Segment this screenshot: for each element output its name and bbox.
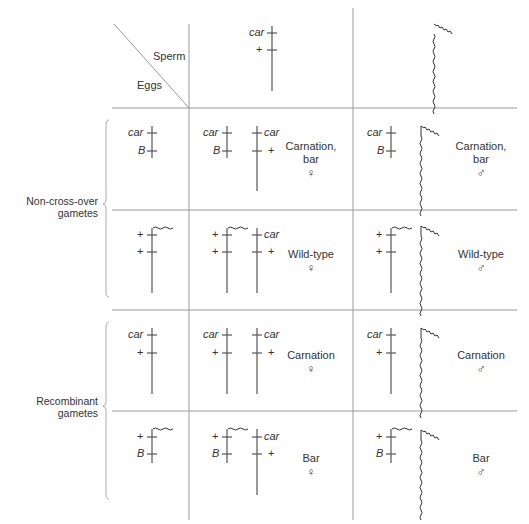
group-label-recombinant: Recombinant gametes (0, 395, 98, 419)
row4-male-pair (386, 428, 439, 520)
row3-male-allele-top: car (367, 328, 382, 341)
row4-female-phenotype: Bar ♀ (266, 452, 356, 479)
row1-male-allele-bottom: B (377, 144, 384, 157)
row1-female-allele-top: car (203, 126, 218, 139)
row1-egg-allele-top: car (128, 126, 143, 139)
female-symbol-icon: ♀ (266, 465, 356, 479)
male-symbol-icon: ♂ (436, 261, 526, 275)
row2-egg-allele-top: + (137, 228, 143, 241)
row1-egg-allele-bottom: B (138, 144, 145, 157)
male-symbol-icon: ♂ (436, 166, 526, 180)
group-label-non-crossover: Non-cross-over gametes (0, 195, 98, 219)
row3-female-pair (222, 328, 262, 394)
row3-female-sperm-allele-top: car (264, 328, 279, 341)
row2-female-allele-bottom: + (212, 245, 218, 258)
row2-female-allele-top: + (212, 228, 218, 241)
male-symbol-icon: ♂ (436, 362, 526, 376)
male-symbol-icon: ♂ (436, 465, 526, 479)
sperm-y-chromosome (433, 24, 452, 114)
row4-female-allele-bottom: B (212, 447, 219, 460)
row4-female-allele-top: + (212, 430, 218, 443)
brace-non-crossover (103, 120, 109, 297)
row2-male-pair (386, 226, 439, 316)
row3-egg (147, 328, 157, 394)
row2-male-allele-bottom: + (376, 245, 382, 258)
row3-male-pair (386, 328, 439, 418)
female-symbol-icon: ♀ (266, 362, 356, 376)
row4-male-allele-bottom: B (376, 447, 383, 460)
female-symbol-icon: ♀ (266, 166, 356, 180)
row1-female-pair (222, 126, 262, 191)
sperm-label: Sperm (153, 50, 185, 63)
row3-female-allele-bottom: + (212, 346, 218, 359)
row1-female-allele-bottom: B (213, 144, 220, 157)
row3-male-phenotype: Carnation ♂ (436, 349, 526, 376)
row4-egg-allele-bottom: B (137, 447, 144, 460)
row4-female-pair (222, 428, 262, 495)
row1-female-sperm-allele-top: car (264, 126, 279, 139)
eggs-label: Eggs (137, 79, 162, 92)
row3-female-allele-top: car (203, 328, 218, 341)
row3-female-phenotype: Carnation ♀ (266, 349, 356, 376)
row4-female-sperm-allele-top: car (264, 430, 279, 443)
row2-egg-allele-bottom: + (137, 245, 143, 258)
row1-female-phenotype: Carnation, bar ♀ (266, 140, 356, 180)
row2-female-pair (222, 227, 262, 293)
row3-egg-allele-bottom: + (137, 346, 143, 359)
sperm-x-chromosome (267, 26, 277, 91)
row2-female-sperm-allele-top: car (264, 228, 279, 241)
brace-recombinant (103, 322, 109, 499)
row2-male-allele-top: + (376, 228, 382, 241)
row1-egg (147, 126, 157, 158)
row1-male-phenotype: Carnation, bar ♂ (436, 140, 526, 180)
row4-male-allele-top: + (376, 430, 382, 443)
row3-male-allele-bottom: + (376, 346, 382, 359)
row3-egg-allele-top: car (128, 328, 143, 341)
row4-male-phenotype: Bar ♂ (436, 452, 526, 479)
sperm-x-allele-top: car (249, 26, 264, 39)
row2-female-phenotype: Wild-type ♀ (266, 248, 356, 275)
sperm-x-allele-bottom: + (256, 43, 262, 56)
row4-egg (147, 428, 173, 463)
row2-egg (147, 227, 173, 293)
row1-male-pair (386, 126, 439, 216)
row4-egg-allele-top: + (137, 430, 143, 443)
female-symbol-icon: ♀ (266, 261, 356, 275)
row2-male-phenotype: Wild-type ♂ (436, 248, 526, 275)
row1-male-allele-top: car (367, 126, 382, 139)
